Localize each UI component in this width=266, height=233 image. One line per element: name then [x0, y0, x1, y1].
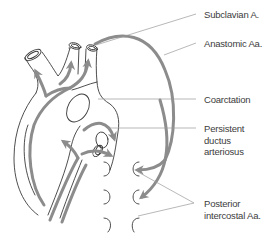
intercostal-brackets [104, 162, 139, 232]
aorta-outline [14, 48, 119, 218]
label-line: Persistent [204, 123, 244, 135]
label-persistent-ductus-arteriosus: Persistent ductus arteriosus [204, 123, 244, 158]
label-line: Posterior [204, 198, 261, 210]
label-line: ductus [204, 135, 244, 147]
label-posterior-intercostal-arteries: Posterior intercostal Aa. [204, 198, 261, 221]
flow-arrows [30, 36, 174, 222]
label-anastomic-arteries: Anastomic Aa. [204, 38, 262, 50]
label-subclavian-artery: Subclavian A. [204, 9, 259, 21]
label-coarctation: Coarctation [204, 94, 250, 106]
label-line: intercostal Aa. [204, 210, 261, 222]
label-line: arteriosus [204, 146, 244, 158]
